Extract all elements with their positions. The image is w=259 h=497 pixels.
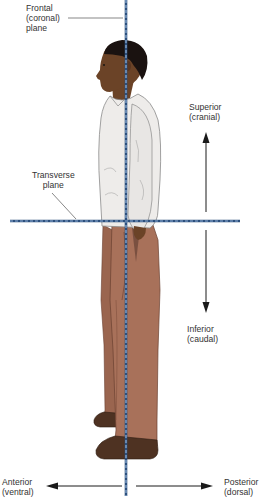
frontal-label-line1: Frontal — [26, 3, 60, 13]
posterior-label-line2: (dorsal) — [224, 487, 258, 497]
inferior-label-line1: Inferior — [187, 324, 218, 334]
frontal-plane-label: Frontal (coronal) plane — [26, 3, 60, 33]
inferior-label: Inferior (caudal) — [187, 324, 218, 344]
transverse-label-line1: Transverse — [32, 170, 75, 180]
posterior-label-line1: Posterior — [224, 477, 258, 487]
superior-arrow-icon — [203, 132, 210, 212]
anterior-label: Anterior (ventral) — [2, 477, 34, 497]
front-leg — [110, 222, 160, 446]
posterior-label: Posterior (dorsal) — [224, 477, 258, 497]
anterior-arrow-icon — [46, 483, 122, 490]
frontal-label-line3: plane — [26, 23, 60, 33]
sleeve — [128, 104, 152, 232]
eye — [103, 64, 105, 66]
frontal-label-line2: (coronal) — [26, 13, 60, 23]
inferior-arrow-icon — [203, 230, 210, 313]
superior-label-line2: (cranial) — [189, 112, 221, 122]
posterior-arrow-icon — [136, 483, 213, 490]
superior-label-line1: Superior — [189, 102, 221, 112]
anterior-label-line2: (ventral) — [2, 487, 34, 497]
transverse-plane-label: Transverse plane — [32, 170, 75, 190]
inferior-label-line2: (caudal) — [187, 334, 218, 344]
transverse-leader-line — [52, 193, 76, 219]
transverse-label-line2: plane — [32, 180, 75, 190]
superior-label: Superior (cranial) — [189, 102, 221, 122]
anterior-label-line1: Anterior — [2, 477, 34, 487]
